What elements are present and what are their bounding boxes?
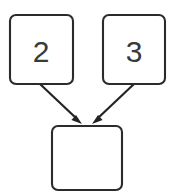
node-operand-left[interactable]: 2 (10, 15, 73, 84)
node-result[interactable] (52, 126, 122, 190)
node-operand-right[interactable]: 3 (103, 15, 165, 84)
edge-right-to-result (92, 84, 134, 124)
node-box[interactable] (52, 126, 122, 190)
edge-left-to-result (40, 84, 82, 124)
diagram-canvas: 2 3 (0, 0, 173, 195)
node-label: 2 (33, 35, 50, 68)
edge-line (98, 84, 135, 119)
node-label: 3 (126, 35, 143, 68)
node-graph-diagram: 2 3 (0, 0, 173, 195)
edge-line (40, 84, 77, 119)
